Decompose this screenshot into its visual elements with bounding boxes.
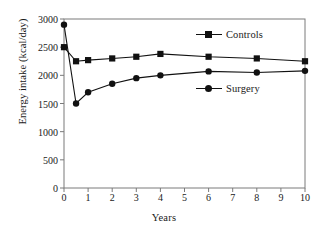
data-point-controls [85,57,91,63]
data-point-surgery [157,72,163,78]
series-line-surgery [64,25,305,104]
series-line-controls [64,47,305,61]
x-tick-label: 6 [197,192,221,203]
legend-item-controls: Controls [196,29,263,40]
data-point-surgery [133,75,139,81]
data-point-surgery [302,68,308,74]
data-point-surgery [61,21,67,27]
x-tick-label: 0 [52,192,76,203]
data-point-controls [206,54,212,60]
data-point-surgery [109,81,115,87]
x-axis-title: Years [0,212,328,223]
legend-marker-circle-icon [196,84,222,93]
legend-label-controls: Controls [226,29,263,40]
data-point-surgery [205,68,211,74]
data-point-controls [109,55,115,61]
data-point-controls [302,58,308,64]
x-tick-label: 1 [76,192,100,203]
x-tick-label: 8 [245,192,269,203]
chart-container: 050010001500200025003000 Energy intake (… [0,0,328,233]
y-axis-title: Energy intake (kcal/day) [17,0,28,157]
data-point-surgery [85,89,91,95]
x-tick-label: 3 [124,192,148,203]
x-tick-label: 5 [173,192,197,203]
legend-label-surgery: Surgery [226,83,260,94]
data-point-controls [73,58,79,64]
data-point-controls [157,51,163,57]
x-tick-label: 10 [293,192,317,203]
plot-frame [64,19,305,188]
data-point-controls [133,54,139,60]
x-tick-label: 9 [269,192,293,203]
legend-item-surgery: Surgery [196,83,260,94]
legend-marker-square-icon [196,30,222,39]
data-point-controls [254,55,260,61]
data-point-controls [61,44,67,50]
data-point-surgery [73,100,79,106]
x-tick-label: 4 [148,192,172,203]
x-tick-label: 2 [100,192,124,203]
data-point-surgery [254,69,260,75]
x-tick-label: 7 [221,192,245,203]
